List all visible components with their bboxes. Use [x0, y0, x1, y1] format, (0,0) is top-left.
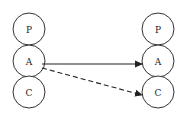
- right-node-p: P: [142, 13, 174, 45]
- dashed-arrow-a-to-c: [42, 68, 142, 95]
- left-node-a-label: A: [25, 57, 33, 67]
- left-node-p-label: P: [26, 25, 32, 35]
- left-node-c-label: C: [26, 88, 33, 98]
- diagram-canvas: P A C P A C: [0, 0, 187, 119]
- left-node-p: P: [13, 13, 45, 45]
- left-node-a: A: [13, 45, 45, 77]
- right-node-p-label: P: [155, 25, 161, 35]
- right-node-c-label: C: [155, 88, 162, 98]
- right-node-c: C: [142, 76, 174, 108]
- left-node-c: C: [13, 76, 45, 108]
- right-node-a-label: A: [154, 57, 162, 67]
- right-node-a: A: [142, 45, 174, 77]
